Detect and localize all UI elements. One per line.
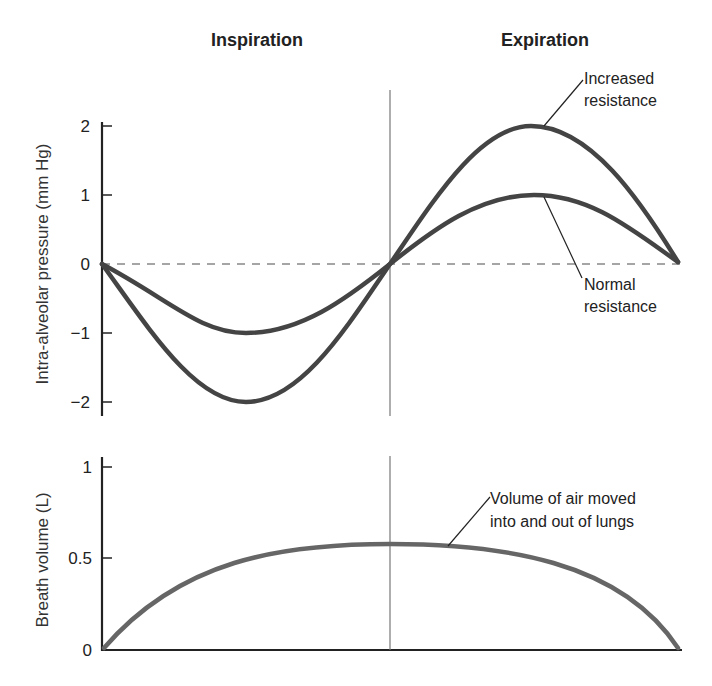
pressure-tick-0: 0 bbox=[81, 255, 90, 274]
pressure-y-axis-label: Intra-alveolar pressure (mm Hg) bbox=[33, 144, 52, 385]
pressure-tick-neg2: −2 bbox=[71, 393, 90, 412]
increased-resistance-label-1: Increased bbox=[584, 70, 654, 87]
increased-resistance-label-2: resistance bbox=[584, 92, 657, 109]
pressure-tick-1: 1 bbox=[81, 186, 90, 205]
volume-tick-0-5: 0.5 bbox=[68, 549, 92, 568]
volume-chart: Breath volume (L) 1 0.5 0 Volume of air … bbox=[33, 456, 682, 660]
volume-tick-0: 0 bbox=[83, 641, 92, 660]
normal-resistance-label-2: resistance bbox=[584, 298, 657, 315]
increased-resistance-leader bbox=[544, 80, 583, 126]
volume-annotation-label-2: into and out of lungs bbox=[490, 513, 634, 530]
normal-resistance-label-1: Normal bbox=[584, 276, 636, 293]
breath-volume-curve bbox=[104, 544, 678, 648]
volume-annotation-leader bbox=[448, 497, 490, 546]
phase-label-expiration: Expiration bbox=[501, 30, 589, 50]
volume-tick-1: 1 bbox=[83, 458, 92, 477]
pressure-tick-2: 2 bbox=[81, 117, 90, 136]
volume-y-ticks bbox=[102, 467, 112, 558]
volume-y-axis-label: Breath volume (L) bbox=[33, 492, 52, 627]
normal-resistance-leader bbox=[544, 197, 582, 278]
phase-label-inspiration: Inspiration bbox=[211, 30, 303, 50]
pressure-chart: Intra-alveolar pressure (mm Hg) 2 1 0 −1… bbox=[33, 70, 680, 416]
volume-annotation-label-1: Volume of air moved bbox=[490, 490, 636, 507]
pressure-tick-neg1: −1 bbox=[71, 324, 90, 343]
figure: Inspiration Expiration Intra-alveolar pr… bbox=[0, 0, 712, 686]
